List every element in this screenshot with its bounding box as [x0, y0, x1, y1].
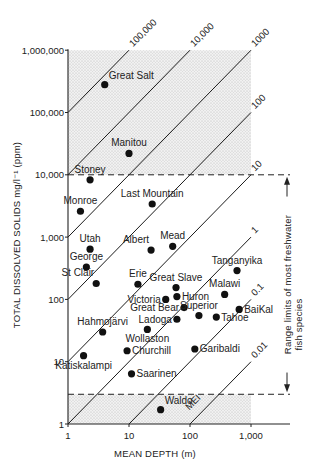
point-label: Wollaston — [125, 333, 169, 344]
point-label: Last Mountain — [121, 188, 184, 199]
point-label: Mead — [160, 230, 185, 241]
point-marker — [128, 370, 135, 377]
point-marker — [125, 150, 132, 157]
point-label: Utah — [80, 233, 101, 244]
y-axis-title: TOTAL DISSOLVED SOLIDS mg/l⁻¹ (ppm) — [11, 142, 22, 328]
y-tick-label: 10,000 — [35, 169, 64, 180]
data-point: Last Mountain — [121, 188, 184, 208]
point-label: Monroe — [63, 195, 97, 206]
arrow-down-icon — [284, 384, 290, 392]
point-marker — [77, 208, 84, 215]
point-label: Stoney — [74, 164, 105, 175]
x-tick-label: 10 — [124, 430, 135, 441]
mei-line-label: 1000 — [249, 26, 272, 49]
data-point: Great Slave — [150, 272, 203, 292]
mei-line-label: 100 — [249, 92, 268, 111]
data-point: Erie — [129, 268, 147, 288]
mei-line-label: 10,000 — [188, 20, 216, 48]
arrow-up-icon — [284, 177, 290, 185]
point-label: Churchill — [132, 345, 171, 356]
point-label: Tanganyika — [212, 255, 263, 266]
point-marker — [144, 326, 151, 333]
y-tick-label: 1 — [59, 419, 64, 430]
annotation-line2: fish species — [293, 298, 304, 350]
data-point: Stoney — [74, 164, 105, 184]
data-point: Mead — [160, 230, 185, 250]
point-label: Great Salt — [109, 70, 154, 81]
point-label: Great Bear — [130, 302, 180, 313]
point-label: Great Slave — [150, 272, 203, 283]
data-point: Hahmojärvi — [77, 316, 128, 336]
point-label: George — [70, 251, 104, 262]
data-point: Malawi — [209, 278, 240, 298]
point-marker — [157, 406, 164, 413]
data-point: Utah — [80, 233, 101, 253]
point-marker — [149, 200, 156, 207]
y-tick-label: 100,000 — [30, 107, 64, 118]
mei-line-label: 0.01 — [249, 339, 270, 360]
x-tick-label: 1,000 — [239, 430, 263, 441]
point-marker — [213, 313, 220, 320]
point-label: Malawi — [209, 278, 240, 289]
point-label: Superior — [180, 300, 218, 311]
point-label: Ladoga — [139, 314, 173, 325]
point-marker — [233, 267, 240, 274]
point-label: Hahmojärvi — [77, 316, 128, 327]
point-label: Albert — [123, 234, 149, 245]
freshwater-annotation: Range limits of most freshwaterfish spec… — [281, 177, 311, 392]
point-label: Garibaldi — [200, 343, 240, 354]
point-marker — [93, 280, 100, 287]
point-marker — [99, 328, 106, 335]
y-tick-label: 1,000 — [40, 232, 64, 243]
point-label: Erie — [129, 268, 147, 279]
data-point: Churchill — [123, 345, 171, 356]
point-marker — [169, 243, 176, 250]
point-marker — [123, 347, 130, 354]
data-point: Wollaston — [125, 326, 169, 345]
point-marker — [195, 312, 202, 319]
data-point: Tanganyika — [212, 255, 263, 275]
y-tick-label: 100 — [48, 294, 64, 305]
point-marker — [173, 316, 180, 323]
point-label: Katiskalampi — [55, 360, 112, 371]
point-label: St Clair — [61, 267, 94, 278]
data-point: Albert — [123, 234, 155, 254]
point-marker — [172, 284, 179, 291]
point-label: Waldo — [165, 395, 193, 406]
mei-line-label: 1 — [249, 224, 261, 236]
point-marker — [86, 176, 93, 183]
above-freshwater-limit-region — [68, 50, 251, 175]
point-marker — [134, 281, 141, 288]
point-marker — [101, 81, 108, 88]
data-point: Superior — [180, 300, 218, 320]
point-marker — [147, 246, 154, 253]
data-point: Tahoe — [213, 312, 249, 323]
y-tick-label: 1,000,000 — [22, 45, 64, 56]
mei-line-label: 0.1 — [249, 281, 266, 298]
x-tick-label: 100 — [182, 430, 198, 441]
data-point: St Clair — [61, 267, 99, 287]
mei-line-label: 100,000 — [127, 17, 159, 49]
annotation-line1: Range limits of most freshwater — [282, 215, 293, 354]
point-marker — [221, 291, 228, 298]
point-marker — [80, 352, 87, 359]
point-label: Manitou — [111, 137, 147, 148]
point-label: Tahoe — [221, 312, 249, 323]
mei-scatter-chart: 100,00010,00010001001010.10.01MEI 110100… — [0, 0, 317, 470]
point-marker — [191, 345, 198, 352]
x-axis-title: MEAN DEPTH (m) — [114, 448, 196, 459]
data-point: Katiskalampi — [55, 352, 112, 371]
x-tick-label: 1 — [65, 430, 70, 441]
point-label: Saarinen — [137, 368, 177, 379]
data-point: Saarinen — [128, 368, 177, 379]
